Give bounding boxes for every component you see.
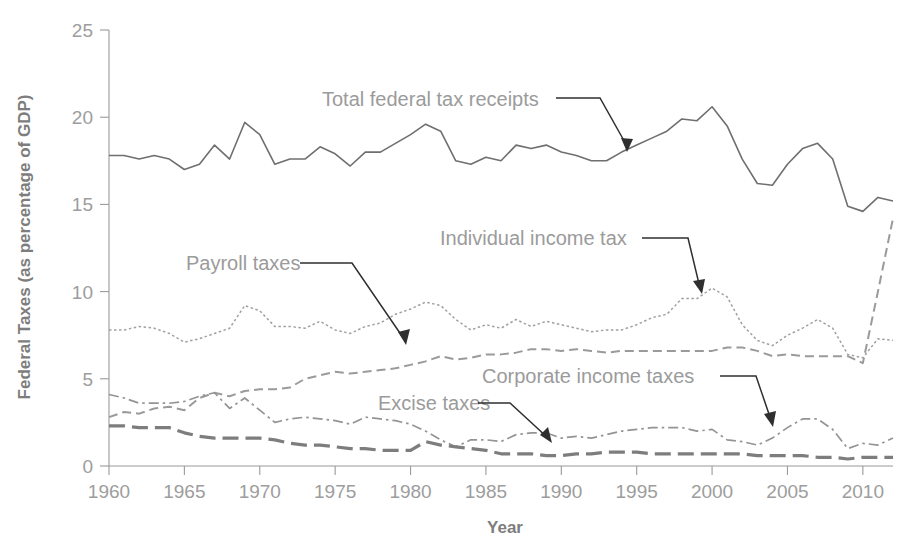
x-axis-tick-label: 1980 [389,481,431,502]
annotation-label-payroll-taxes: Payroll taxes [186,252,301,274]
series-line-excise-taxes [109,426,893,459]
annotation-label-total-federal-tax-receipts: Total federal tax receipts [322,88,539,110]
y-axis-tick-label: 25 [72,20,93,41]
federal-taxes-line-chart: 0510152025 19601965197019751980198519901… [0,0,917,560]
series-line-corporate-income-taxes [109,393,893,449]
x-axis-tick-label: 2005 [766,481,808,502]
y-axis-ticks [100,30,109,466]
y-axis-tick-label: 5 [82,369,93,390]
x-axis-tick-label: 2010 [842,481,884,502]
y-axis-title: Federal Taxes (as percentage of GDP) [15,95,34,400]
annotation-leader-individual-income-tax [642,238,700,288]
y-axis-tick-label: 0 [82,456,93,477]
annotation-label-corporate-income-taxes: Corporate income taxes [482,365,694,387]
x-axis-tick-label: 1975 [314,481,356,502]
x-axis-tick-label: 1995 [616,481,658,502]
chart-container: 0510152025 19601965197019751980198519901… [0,0,917,560]
x-axis-tick-label: 1965 [163,481,205,502]
series-line-individual-income-tax [109,288,893,358]
x-axis-tick-label: 1990 [540,481,582,502]
y-axis-tick-label: 10 [72,282,93,303]
x-axis-tick-label: 1970 [239,481,281,502]
x-axis-tick-labels: 1960196519701975198019851990199520002005… [88,481,884,502]
x-axis-ticks [109,466,863,475]
annotation-arrow-individual-income-tax [693,279,705,294]
annotation-excise-taxes: Excise taxes [378,392,552,443]
annotation-label-excise-taxes: Excise taxes [378,392,490,414]
annotation-total-federal-tax-receipts: Total federal tax receipts [322,88,633,152]
annotation-leader-corporate-income-taxes [720,376,771,420]
y-axis-tick-label: 20 [72,107,93,128]
annotation-leader-total-federal-tax-receipts [556,98,627,146]
annotation-label-individual-income-tax: Individual income tax [440,227,627,249]
x-axis-tick-label: 2000 [691,481,733,502]
annotation-leader-payroll-taxes [300,263,404,339]
annotation-individual-income-tax: Individual income tax [440,227,705,294]
series-line-total-federal-tax-receipts [109,107,893,212]
x-axis-tick-label: 1960 [88,481,130,502]
x-axis-title: Year [487,518,523,537]
data-series-group [109,107,893,459]
annotation-arrow-corporate-income-taxes [764,411,776,427]
annotation-arrow-payroll-taxes [398,329,410,345]
annotation-arrow-total-federal-tax-receipts [621,138,633,152]
y-axis-tick-label: 15 [72,194,93,215]
x-axis-tick-label: 1985 [465,481,507,502]
y-axis-tick-labels: 0510152025 [72,20,93,477]
